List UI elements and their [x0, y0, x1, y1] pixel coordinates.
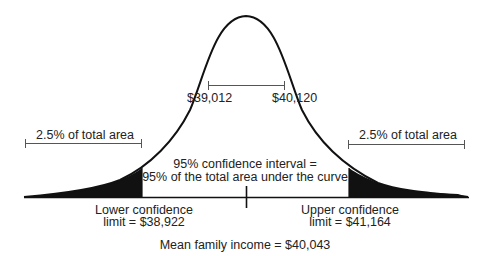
mean-label: Mean family income = $40,043: [140, 239, 350, 252]
upper-limit-label-line2: limit = $41,164: [290, 216, 410, 229]
inner-right-value: $40,120: [272, 92, 317, 105]
inner-left-value: $39,012: [187, 92, 232, 105]
right-tail-shaded-area: [349, 168, 468, 197]
right-tail-label: 2.5% of total area: [359, 129, 457, 142]
left-tail-shaded-area: [24, 168, 142, 197]
lower-limit-label-line2: limit = $38,922: [84, 216, 204, 229]
interval-label-line2: 95% of the total area under the curve: [140, 171, 350, 184]
left-tail-label: 2.5% of total area: [36, 129, 134, 142]
inner-range-bracket: [208, 81, 285, 90]
